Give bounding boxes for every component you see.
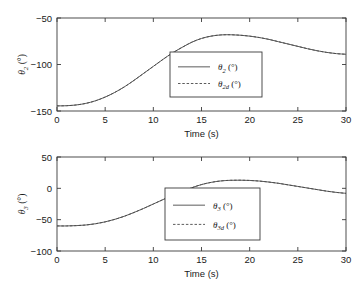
legend-label-2: θ2 (°)	[218, 62, 238, 73]
theta3-plot-panel: 051015202530500−50−100Time (s)θ3 (°)θ3 (…	[0, 148, 361, 295]
y-axis-label: θ3 (°)	[17, 194, 30, 215]
y-tick-label: −50	[36, 13, 52, 24]
x-axis-label: Time (s)	[184, 128, 218, 139]
y-axis-label-unit: (°)	[17, 194, 28, 207]
y-axis-label-unit: (°)	[17, 54, 28, 67]
legend-label-unit: (°)	[221, 201, 233, 211]
x-tick-label: 25	[293, 114, 304, 125]
figure-container: 051015202530−50−100−150Time (s)θ2 (°)θ2 …	[0, 0, 361, 295]
x-axis-label: Time (s)	[184, 268, 218, 279]
y-tick-label: −100	[31, 59, 52, 70]
x-tick-label: 30	[341, 254, 352, 265]
y-tick-label: 50	[41, 152, 52, 163]
y-tick-label: 0	[47, 183, 52, 194]
theta2-plot-svg: 051015202530−50−100−150Time (s)θ2 (°)θ2 …	[0, 0, 361, 147]
x-tick-label: 15	[196, 254, 207, 265]
legend-box	[165, 188, 260, 240]
x-tick-label: 15	[196, 114, 207, 125]
x-tick-label: 10	[148, 254, 159, 265]
theta2-plot-panel: 051015202530−50−100−150Time (s)θ2 (°)θ2 …	[0, 0, 361, 147]
x-tick-label: 0	[54, 114, 59, 125]
legend-label-unit: (°)	[224, 220, 236, 230]
legend-label-unit: (°)	[226, 62, 238, 72]
theta3-plot-svg: 051015202530500−50−100Time (s)θ3 (°)θ3 (…	[0, 148, 361, 295]
x-tick-label: 25	[293, 254, 304, 265]
x-tick-label: 5	[103, 254, 108, 265]
y-tick-label: −100	[31, 246, 52, 257]
y-axis-label-text: θ2 (°)	[17, 54, 30, 75]
x-tick-label: 30	[341, 114, 352, 125]
y-axis-label-text: θ3 (°)	[17, 194, 30, 215]
legend-label-2d: θ2d (°)	[218, 79, 241, 90]
y-tick-label: −150	[31, 106, 52, 117]
legend-label-3: θ3 (°)	[213, 201, 233, 212]
legend-label-3d: θ3d (°)	[213, 220, 236, 231]
legend-box	[170, 52, 262, 97]
x-tick-label: 10	[148, 114, 159, 125]
y-tick-label: −50	[36, 214, 52, 225]
x-tick-label: 0	[54, 254, 59, 265]
legend-label-unit: (°)	[229, 79, 241, 89]
y-axis-label: θ2 (°)	[17, 54, 30, 75]
x-tick-label: 20	[244, 254, 255, 265]
x-tick-label: 5	[103, 114, 108, 125]
x-tick-label: 20	[244, 114, 255, 125]
